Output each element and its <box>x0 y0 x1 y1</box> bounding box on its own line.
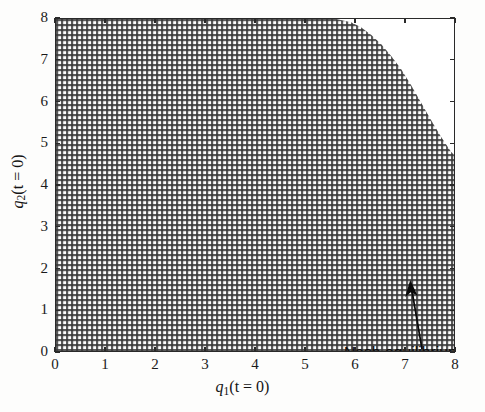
y-tick-label: 8 <box>18 9 48 26</box>
x-axis-tick <box>354 347 355 352</box>
plot-area: Nash equilibrium <box>55 18 455 352</box>
x-tick-label: 6 <box>340 356 370 373</box>
x-axis-tick <box>154 347 155 352</box>
y-axis-tick <box>450 101 455 102</box>
y-axis-tick <box>450 184 455 185</box>
y-axis-tick <box>450 351 455 352</box>
y-axis-argument: (t = 0) <box>9 155 26 195</box>
y-axis-tick <box>450 268 455 269</box>
y-axis-tick <box>450 143 455 144</box>
x-axis-tick <box>204 18 205 23</box>
x-axis-variable: q <box>216 378 224 395</box>
y-axis-tick <box>55 101 60 102</box>
y-axis-tick <box>55 59 60 60</box>
y-axis-tick <box>55 351 60 352</box>
y-axis-tick <box>450 310 455 311</box>
x-axis-tick <box>404 18 405 23</box>
y-axis-tick <box>450 17 455 18</box>
x-axis-argument: (t = 0) <box>229 378 269 395</box>
x-axis-tick <box>304 18 305 23</box>
y-tick-label: 7 <box>18 51 48 68</box>
x-axis-tick <box>204 347 205 352</box>
y-tick-label: 2 <box>18 260 48 277</box>
nash-equilibrium-arrow <box>396 277 436 352</box>
y-axis-variable: q <box>9 200 26 208</box>
figure-canvas: Nash equilibrium 012345678 012345678 q1(… <box>0 0 485 412</box>
nash-equilibrium-label: Nash equilibrium <box>344 343 455 352</box>
x-axis-tick <box>54 18 55 23</box>
y-axis-tick <box>450 226 455 227</box>
y-axis-tick <box>55 310 60 311</box>
y-axis-title: q2(t = 0) <box>9 121 28 241</box>
x-tick-label: 7 <box>390 356 420 373</box>
x-tick-label: 2 <box>140 356 170 373</box>
x-tick-label: 4 <box>240 356 270 373</box>
x-axis-tick <box>254 18 255 23</box>
y-axis-tick <box>55 17 60 18</box>
y-axis-subscript: 2 <box>15 195 27 201</box>
x-axis-title: q1(t = 0) <box>0 378 485 397</box>
y-tick-label: 1 <box>18 301 48 318</box>
y-axis-tick <box>55 184 60 185</box>
x-axis-tick <box>254 347 255 352</box>
x-axis-tick <box>154 18 155 23</box>
x-tick-label: 1 <box>90 356 120 373</box>
x-axis-tick <box>104 347 105 352</box>
x-axis-tick <box>454 18 455 23</box>
y-tick-label: 0 <box>18 343 48 360</box>
x-axis-tick <box>304 347 305 352</box>
y-axis-tick <box>55 143 60 144</box>
x-tick-label: 3 <box>190 356 220 373</box>
y-axis-tick <box>450 59 455 60</box>
y-axis-tick <box>55 268 60 269</box>
x-tick-label: 8 <box>440 356 470 373</box>
y-axis-tick <box>55 226 60 227</box>
x-axis-tick <box>354 18 355 23</box>
x-axis-tick <box>104 18 105 23</box>
y-tick-label: 6 <box>18 93 48 110</box>
x-axis-tick <box>404 347 405 352</box>
x-tick-label: 5 <box>290 356 320 373</box>
